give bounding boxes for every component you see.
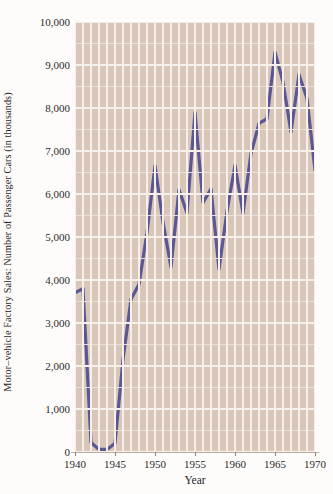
gridline-vertical: [130, 22, 132, 452]
gridline-vertical: [82, 22, 84, 452]
gridline-vertical: [106, 22, 108, 452]
gridline-vertical: [250, 22, 252, 452]
y-axis-tick-label: 4,000: [14, 275, 70, 286]
gridline-vertical: [90, 22, 92, 452]
y-axis-tick-label: 9,000: [14, 60, 70, 71]
x-axis-tick-mark: [155, 452, 156, 456]
gridline-vertical: [258, 22, 260, 452]
gridline-vertical: [122, 22, 124, 452]
y-axis-tick-label: 6,000: [14, 189, 70, 200]
line-chart-figure: Motor–vehicle Factory Sales: Number of P…: [0, 0, 333, 494]
gridline-vertical: [202, 22, 204, 452]
x-axis-tick-mark: [75, 452, 76, 456]
y-axis-tick-label: 0: [14, 447, 70, 458]
y-axis-tick-label: 7,000: [14, 146, 70, 157]
gridline-vertical: [98, 22, 100, 452]
y-axis-tick-labels: 01,0002,0003,0004,0005,0006,0007,0008,00…: [0, 0, 75, 494]
plot-area: [75, 22, 315, 452]
gridline-vertical: [170, 22, 172, 452]
y-axis-tick-label: 10,000: [14, 17, 70, 28]
gridline-vertical: [226, 22, 228, 452]
gridline-vertical: [178, 22, 180, 452]
x-axis-tick-mark: [235, 452, 236, 456]
gridline-vertical: [186, 22, 188, 452]
gridline-vertical: [210, 22, 212, 452]
gridline-vertical: [218, 22, 220, 452]
gridline-vertical: [314, 22, 315, 452]
y-axis-tick-label: 2,000: [14, 361, 70, 372]
gridline-vertical: [194, 22, 196, 452]
y-axis-tick-label: 1,000: [14, 404, 70, 415]
y-axis-tick-label: 8,000: [14, 103, 70, 114]
gridline-vertical: [138, 22, 140, 452]
gridline-vertical: [298, 22, 300, 452]
gridline-vertical: [282, 22, 284, 452]
x-axis-tick-mark: [315, 452, 316, 456]
gridline-vertical: [242, 22, 244, 452]
gridline-vertical: [266, 22, 268, 452]
gridline-vertical: [154, 22, 156, 452]
gridline-vertical: [75, 22, 76, 452]
x-axis-tick-label: 1970: [285, 458, 333, 471]
gridline-vertical: [146, 22, 148, 452]
y-axis-tick-label: 3,000: [14, 318, 70, 329]
x-axis-tick-mark: [195, 452, 196, 456]
gridline-vertical: [274, 22, 276, 452]
x-axis-tick-mark: [275, 452, 276, 456]
y-axis-tick-label: 5,000: [14, 232, 70, 243]
gridline-vertical: [162, 22, 164, 452]
gridline-vertical: [114, 22, 116, 452]
gridline-vertical: [234, 22, 236, 452]
gridline-vertical: [290, 22, 292, 452]
x-axis-title: Year: [75, 474, 315, 486]
gridline-vertical: [306, 22, 308, 452]
x-axis-tick-mark: [115, 452, 116, 456]
